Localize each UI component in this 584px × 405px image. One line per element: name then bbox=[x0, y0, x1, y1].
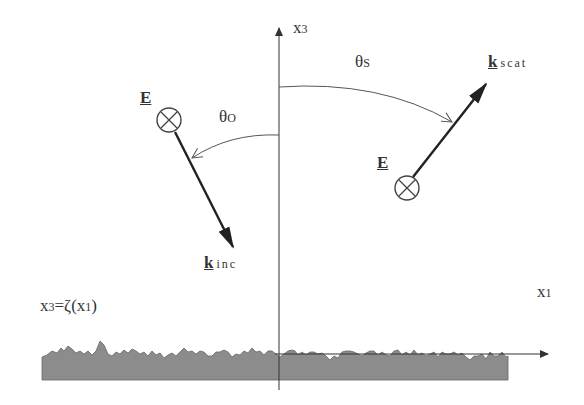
e-incident-label: E bbox=[140, 88, 151, 108]
e-scattered-label: E bbox=[377, 153, 388, 173]
k-inc-arrow bbox=[175, 132, 233, 247]
k-scat-arrow bbox=[413, 84, 486, 177]
surface-equation: x3=ζ(x1) bbox=[40, 296, 97, 316]
k-inc-label: kinc bbox=[204, 253, 237, 273]
k-scat-label: kscat bbox=[488, 52, 527, 72]
e-field-incident-icon bbox=[157, 108, 181, 132]
x1-axis-label: x1 bbox=[537, 282, 554, 302]
x3-axis-label: x3 bbox=[293, 18, 310, 38]
theta-o-arc bbox=[192, 135, 279, 158]
theta-s-arc bbox=[279, 86, 452, 122]
theta-o-label: θO bbox=[219, 107, 238, 127]
theta-s-label: θS bbox=[355, 52, 372, 72]
rough-surface bbox=[42, 341, 508, 380]
e-field-scattered-icon bbox=[395, 176, 419, 200]
